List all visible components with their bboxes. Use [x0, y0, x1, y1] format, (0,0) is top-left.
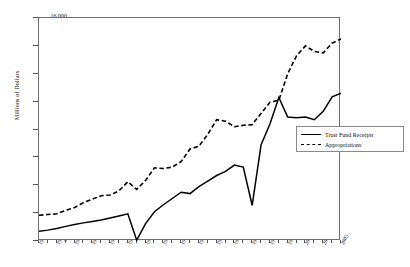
plot-area [38, 17, 340, 240]
legend-label: Trust Fund Receipts [325, 132, 373, 138]
chart-legend: Trust Fund Receipts Appropriations [296, 126, 404, 152]
series-line-trust-fund-receipts [39, 93, 341, 240]
legend-label: Appropriations [325, 142, 361, 148]
legend-item-trust-fund-receipts: Trust Fund Receipts [301, 130, 399, 140]
legend-swatch-dashed-line-icon [301, 141, 321, 149]
y-axis-title: Millions of Dollars [13, 56, 20, 136]
legend-item-appropriations: Appropriations [301, 140, 399, 150]
legend-swatch-solid-line-icon [301, 131, 321, 139]
chart-container: Millions of Dollars 02,0004,0006,0008,00… [0, 0, 410, 267]
